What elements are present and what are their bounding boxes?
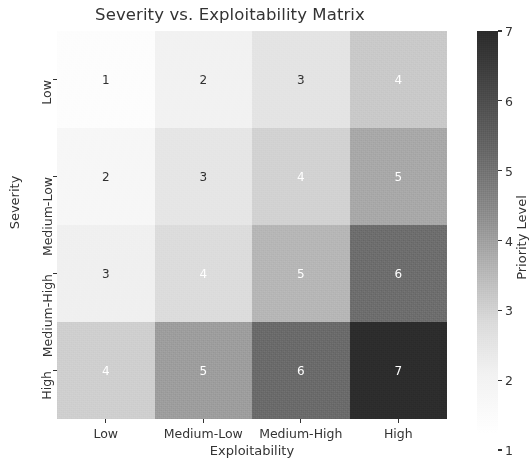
heatmap-cell-value: 1: [102, 74, 110, 86]
chart-title: Severity vs. Exploitability Matrix: [0, 5, 460, 24]
colorbar-tick-mark: [498, 449, 502, 450]
heatmap-cell: 1: [57, 31, 155, 128]
heatmap-cell: 5: [350, 128, 448, 225]
y-axis-label: Severity: [0, 0, 16, 468]
colorbar-tick-mark: [498, 30, 502, 31]
x-tick-label: Medium-High: [259, 426, 342, 441]
heatmap-cell-value: 3: [102, 268, 110, 280]
heatmap-cell: 5: [155, 322, 253, 419]
heatmap-cell: 6: [252, 322, 350, 419]
colorbar-tick-mark: [498, 240, 502, 241]
heatmap-cell: 4: [252, 128, 350, 225]
heatmap-cell-value: 2: [199, 74, 207, 86]
heatmap-cell: 5: [252, 225, 350, 322]
heatmap-cell: 3: [57, 225, 155, 322]
heatmap-cell: 7: [350, 322, 448, 419]
colorbar-tick-mark: [498, 170, 502, 171]
y-tick-label: Medium-Low: [40, 177, 55, 256]
heatmap-cell-value: 3: [199, 171, 207, 183]
heatmap-cell: 4: [350, 31, 448, 128]
heatmap-cell: 6: [350, 225, 448, 322]
heatmap-cell-value: 7: [394, 365, 402, 377]
colorbar-tick-mark: [498, 100, 502, 101]
x-tick-label: Medium-Low: [164, 426, 243, 441]
x-axis-label: Exploitability: [57, 443, 447, 458]
y-tick-label: Low: [40, 80, 55, 105]
heatmap-cell: 2: [155, 31, 253, 128]
colorbar-gradient: [477, 31, 498, 450]
colorbar-tick-mark: [498, 380, 502, 381]
heatmap-cell-value: 6: [297, 365, 305, 377]
heatmap-cell-value: 2: [102, 171, 110, 183]
x-tick-mark: [105, 419, 106, 423]
heatmap-cell: 2: [57, 128, 155, 225]
heatmap-cell-value: 5: [297, 268, 305, 280]
heatmap-cell-value: 4: [102, 365, 110, 377]
heatmap-cell-value: 4: [394, 74, 402, 86]
colorbar-label: Priority Level: [505, 0, 529, 468]
heatmap-cell-value: 5: [394, 171, 402, 183]
x-tick-mark: [300, 419, 301, 423]
heatmap-cell: 4: [57, 322, 155, 419]
colorbar-tick-mark: [498, 310, 502, 311]
heatmap-cell-value: 4: [199, 268, 207, 280]
x-tick-label: Low: [93, 426, 118, 441]
heatmap-figure: Severity vs. Exploitability Matrix 12342…: [0, 0, 529, 468]
heatmap-grid: 1234234534564567: [57, 31, 447, 419]
x-tick-label: High: [384, 426, 413, 441]
heatmap-cell: 4: [155, 225, 253, 322]
heatmap-cell-value: 3: [297, 74, 305, 86]
y-tick-label: Medium-High: [40, 274, 55, 357]
heatmap-cell-value: 6: [394, 268, 402, 280]
heatmap-cell: 3: [155, 128, 253, 225]
colorbar-label-text: Priority Level: [514, 158, 529, 318]
heatmap-cell-value: 5: [199, 365, 207, 377]
heatmap-cell: 3: [252, 31, 350, 128]
y-tick-label: High: [40, 371, 55, 400]
y-axis-label-text: Severity: [7, 103, 22, 303]
x-tick-mark: [398, 419, 399, 423]
x-tick-mark: [203, 419, 204, 423]
heatmap-cell-value: 4: [297, 171, 305, 183]
